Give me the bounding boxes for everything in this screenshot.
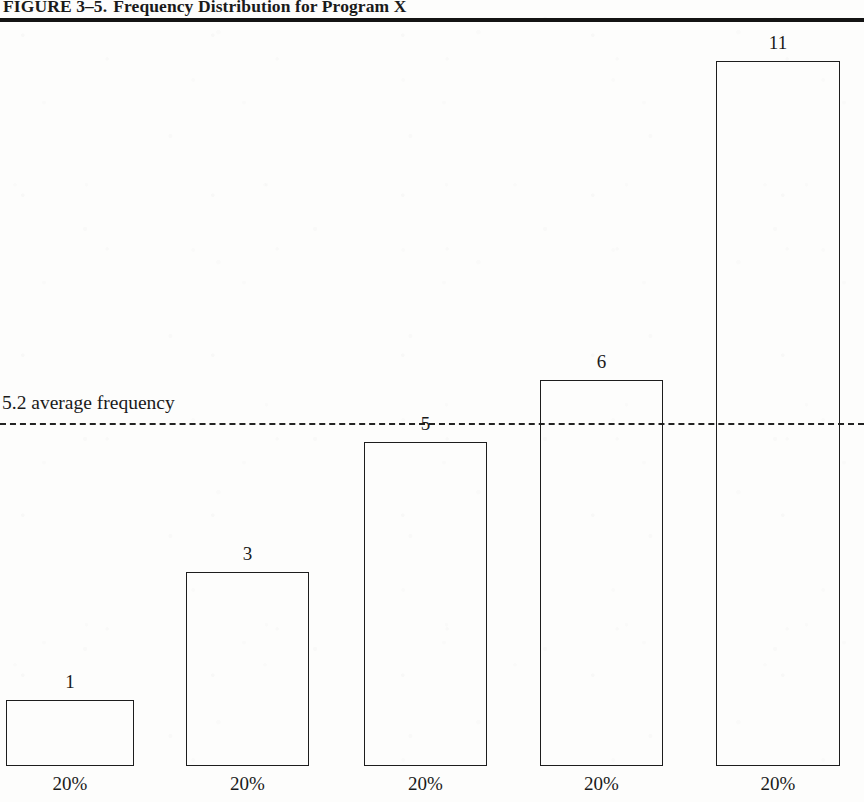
bar: [716, 61, 840, 766]
title-rule: [0, 18, 864, 22]
bar-value-label: 1: [6, 672, 134, 692]
average-frequency-label: 5.2 average frequency: [2, 392, 175, 414]
bar-category-label: 20%: [364, 773, 487, 795]
bar: [364, 442, 487, 766]
figure-number: FIGURE 3–5.: [3, 0, 107, 16]
bar-value-label: 3: [186, 544, 309, 564]
bar-category-label: 20%: [716, 773, 840, 795]
bar-value-label: 5: [364, 414, 487, 434]
bar-category-label: 20%: [540, 773, 663, 795]
bar-chart-plot-area: 5.2 average frequency 120%320%520%620%11…: [0, 24, 864, 802]
figure-title: FIGURE 3–5.Frequency Distribution for Pr…: [3, 0, 406, 16]
bar-value-label: 6: [540, 352, 663, 372]
bar-category-label: 20%: [186, 773, 309, 795]
figure-caption: Frequency Distribution for Program X: [113, 0, 406, 16]
bar: [186, 572, 309, 766]
bar: [6, 700, 134, 766]
bar: [540, 380, 663, 766]
figure-page: FIGURE 3–5.Frequency Distribution for Pr…: [0, 0, 864, 802]
bar-category-label: 20%: [6, 773, 134, 795]
bar-value-label: 11: [716, 33, 840, 53]
